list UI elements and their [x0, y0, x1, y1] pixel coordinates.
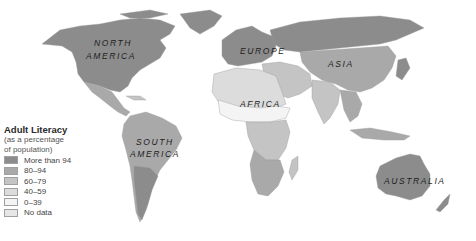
legend-label: No data: [24, 208, 52, 217]
legend-label: 80–94: [24, 166, 46, 175]
region-madagascar: [289, 156, 298, 180]
region-indonesia: [350, 128, 410, 140]
region-south-asia: [312, 80, 340, 124]
legend-item: 60–79: [4, 176, 114, 186]
label-south-america-line2: AMERICA: [129, 149, 180, 159]
legend-title: Adult Literacy: [4, 124, 114, 135]
label-europe: EUROPE: [240, 46, 286, 56]
label-north-america-line2: AMERICA: [85, 51, 136, 61]
legend-item: 0–39: [4, 197, 114, 207]
legend-swatch: [4, 188, 18, 196]
map-legend: Adult Literacy (as a percentage of popul…: [4, 124, 114, 218]
region-south-america: [122, 112, 182, 222]
region-new-zealand: [436, 194, 450, 212]
legend-label: 0–39: [24, 198, 42, 207]
legend-swatch: [4, 167, 18, 175]
region-arctic-islands: [120, 10, 168, 18]
label-asia: ASIA: [327, 59, 354, 69]
legend-subtitle-line1: (as a percentage: [4, 135, 114, 145]
legend-swatch: [4, 177, 18, 185]
legend-item: 80–94: [4, 166, 114, 176]
legend-swatch: [4, 156, 18, 164]
region-japan: [396, 58, 410, 80]
label-south-america-line1: SOUTH: [136, 137, 174, 147]
legend-swatch: [4, 209, 18, 217]
legend-label: 40–59: [24, 187, 46, 196]
label-australia: AUSTRALIA: [383, 176, 446, 186]
region-russia: [270, 16, 424, 52]
label-north-america-line1: NORTH: [94, 38, 132, 48]
region-argentina-chile: [134, 166, 158, 220]
legend-swatch: [4, 198, 18, 206]
legend-item: More than 94: [4, 155, 114, 165]
legend-item: 40–59: [4, 187, 114, 197]
legend-label: More than 94: [24, 156, 71, 165]
region-caribbean: [126, 96, 146, 100]
label-africa: AFRICA: [239, 99, 281, 109]
region-greenland: [180, 10, 222, 34]
legend-label: 60–79: [24, 177, 46, 186]
legend-item: No data: [4, 208, 114, 218]
region-central-africa: [246, 120, 290, 160]
region-southeast-asia: [340, 90, 362, 122]
legend-subtitle-line2: of population): [4, 145, 114, 155]
